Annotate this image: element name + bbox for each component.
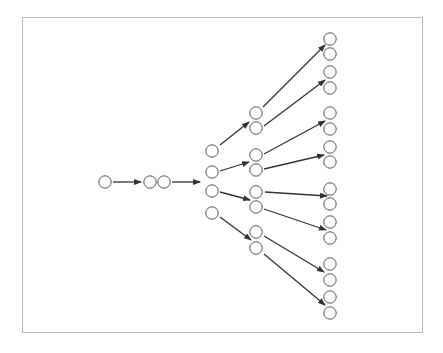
arrow-edge — [264, 80, 325, 126]
arrow-edge — [220, 122, 249, 145]
circle-node — [324, 107, 336, 119]
circle-node — [324, 258, 336, 270]
circle-node — [324, 33, 336, 45]
arrow-edge — [220, 162, 249, 171]
circle-node — [250, 186, 262, 198]
circle-node — [206, 145, 218, 157]
circle-node — [250, 242, 262, 254]
circle-node — [250, 122, 262, 134]
circle-node — [324, 198, 336, 210]
circle-node — [324, 232, 336, 244]
circle-node — [250, 201, 262, 213]
arrow-edge — [264, 121, 325, 154]
circle-node — [99, 176, 111, 188]
circle-node — [250, 149, 262, 161]
circle-node — [206, 207, 218, 219]
circle-node — [324, 82, 336, 94]
edge-group — [113, 45, 327, 305]
circle-node — [324, 216, 336, 228]
arrow-edge — [220, 217, 251, 240]
circle-node — [324, 48, 336, 60]
circle-node — [158, 176, 170, 188]
circle-node — [250, 226, 262, 238]
circle-node — [324, 123, 336, 135]
arrow-edge — [220, 192, 250, 200]
circle-node — [206, 185, 218, 197]
circle-node — [324, 183, 336, 195]
arrow-edge — [264, 155, 324, 169]
circle-node — [324, 156, 336, 168]
arrow-edge — [264, 209, 326, 230]
circle-node — [206, 166, 218, 178]
circle-node — [324, 274, 336, 286]
circle-node — [324, 291, 336, 303]
arrow-edge — [265, 192, 327, 196]
circle-node — [324, 66, 336, 78]
circle-node — [144, 176, 156, 188]
circle-node — [250, 107, 262, 119]
circle-node — [324, 141, 336, 153]
arrow-edge — [264, 254, 325, 305]
node-group — [99, 33, 336, 319]
branching-tree-diagram — [0, 0, 443, 353]
arrow-edge — [264, 236, 324, 272]
circle-node — [250, 164, 262, 176]
arrow-edge — [263, 45, 325, 107]
circle-node — [324, 307, 336, 319]
